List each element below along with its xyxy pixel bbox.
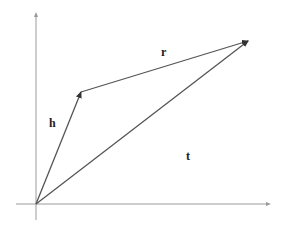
y-axis-arrow-icon [34, 12, 38, 17]
vector-diagram: h r t [0, 0, 282, 234]
label-r: r [161, 45, 167, 59]
label-h: h [49, 116, 56, 130]
label-t: t [186, 149, 190, 163]
x-axis-arrow-icon [266, 202, 271, 206]
vector-t [36, 41, 248, 204]
